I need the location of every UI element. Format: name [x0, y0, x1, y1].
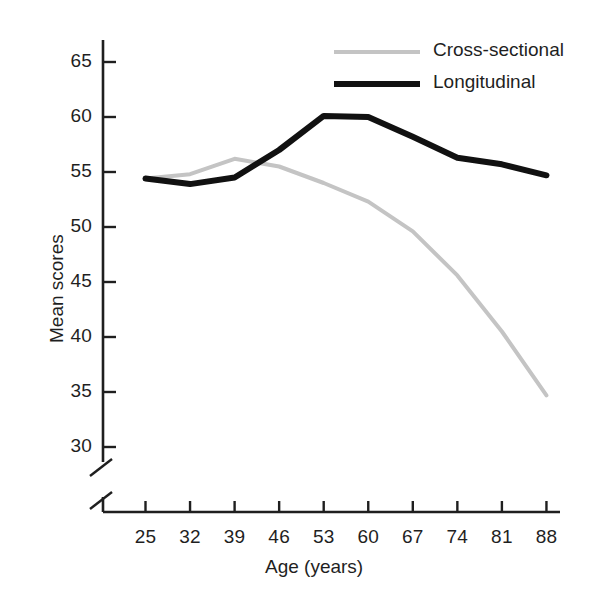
- y-tick-label: 60: [58, 105, 92, 127]
- x-tick-label: 25: [129, 526, 163, 548]
- x-tick-label: 39: [218, 526, 252, 548]
- chart-figure: Cross-sectional Longitudinal Mean scores…: [0, 0, 595, 602]
- y-tick-label: 30: [58, 435, 92, 457]
- x-tick-label: 32: [173, 526, 207, 548]
- legend-label-longitudinal: Longitudinal: [433, 71, 535, 93]
- y-tick-label: 55: [58, 160, 92, 182]
- y-tick-label: 40: [58, 325, 92, 347]
- y-tick-label: 45: [58, 270, 92, 292]
- x-tick-label: 74: [440, 526, 474, 548]
- x-tick-label: 88: [529, 526, 563, 548]
- y-tick-label: 35: [58, 380, 92, 402]
- legend-swatches: [334, 52, 420, 84]
- chart-axes: [90, 40, 560, 512]
- y-tick-label: 65: [58, 50, 92, 72]
- legend-label-cross-sectional: Cross-sectional: [433, 39, 564, 61]
- chart-series-lines: [146, 116, 547, 395]
- y-tick-label: 50: [58, 215, 92, 237]
- x-tick-label: 53: [307, 526, 341, 548]
- x-tick-label: 81: [485, 526, 519, 548]
- x-tick-label: 46: [262, 526, 296, 548]
- x-tick-label: 60: [351, 526, 385, 548]
- x-tick-label: 67: [396, 526, 430, 548]
- x-axis-title: Age (years): [265, 556, 363, 578]
